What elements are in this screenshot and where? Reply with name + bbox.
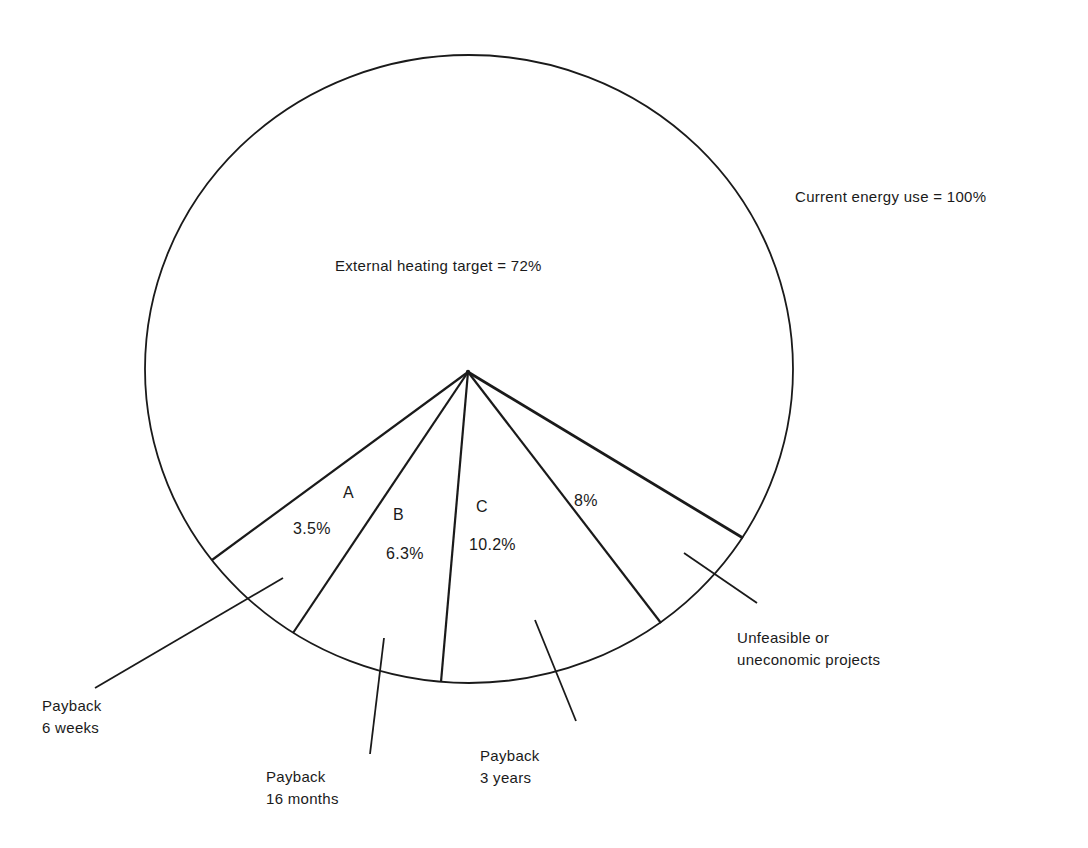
callout-c-line2: 3 years: [480, 767, 540, 789]
slice-b-letter: B: [393, 504, 404, 526]
slice-d-value: 8%: [574, 490, 598, 512]
callout-a-line1: Payback: [42, 695, 102, 717]
callout-d: Unfeasible or uneconomic projects: [737, 627, 880, 671]
callout-b: Payback 16 months: [266, 766, 339, 810]
callout-a-line2: 6 weeks: [42, 717, 102, 739]
pie-outline: [145, 55, 793, 683]
callout-a: Payback 6 weeks: [42, 695, 102, 739]
divider-b-c: [441, 372, 468, 682]
callout-c: Payback 3 years: [480, 745, 540, 789]
total-energy-label: Current energy use = 100%: [795, 186, 986, 208]
callout-leaders: [95, 553, 757, 754]
leader-d: [684, 553, 757, 603]
main-slice-label: External heating target = 72%: [335, 255, 542, 277]
callout-c-line1: Payback: [480, 745, 540, 767]
slice-a-letter: A: [343, 482, 354, 504]
slice-b-value: 6.3%: [386, 543, 424, 565]
callout-d-line1: Unfeasible or: [737, 627, 880, 649]
slice-c-value: 10.2%: [469, 534, 516, 556]
callout-b-line1: Payback: [266, 766, 339, 788]
pie-apex: [466, 370, 470, 374]
callout-b-line2: 16 months: [266, 788, 339, 810]
slice-a-value: 3.5%: [293, 518, 331, 540]
divider-c-d: [468, 372, 661, 623]
divider-a-b: [293, 372, 468, 633]
leader-b: [370, 638, 384, 754]
slice-c-letter: C: [476, 496, 488, 518]
divider-d-right: [468, 372, 743, 538]
pie-chart: [0, 0, 1088, 848]
divider-a-left: [212, 372, 468, 560]
slice-dividers: [212, 372, 743, 682]
callout-d-line2: uneconomic projects: [737, 649, 880, 671]
leader-c: [535, 620, 576, 721]
leader-a: [95, 578, 283, 688]
